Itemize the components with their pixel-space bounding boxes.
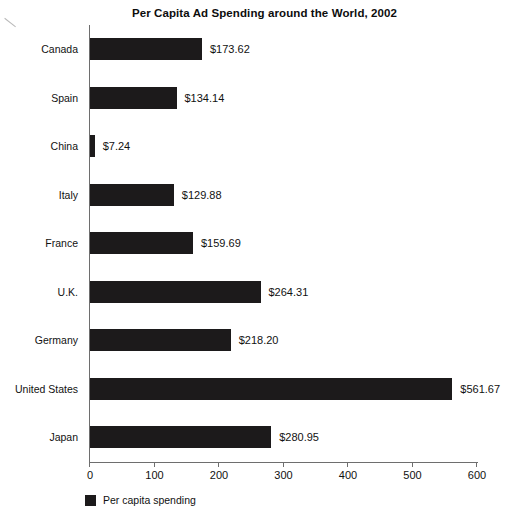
x-axis-tick-label: 0 <box>87 469 93 481</box>
x-axis-line <box>89 462 478 463</box>
bar-uk <box>90 281 261 303</box>
x-axis-tick <box>283 462 284 467</box>
legend-color-swatch <box>85 495 96 506</box>
x-axis-tick <box>412 462 413 467</box>
x-axis-tick-label: 500 <box>403 469 421 481</box>
bar-value-label: $218.20 <box>239 330 279 350</box>
category-label: Canada <box>41 39 78 59</box>
bar-row: Italy $129.88 <box>90 171 477 220</box>
bar-france <box>90 232 193 254</box>
bar-united-states <box>90 378 452 400</box>
chart-title: Per Capita Ad Spending around the World,… <box>0 7 529 19</box>
bar-germany <box>90 329 231 351</box>
bar-row: China $7.24 <box>90 122 477 171</box>
bar-canada <box>90 38 202 60</box>
bar-row: U.K. $264.31 <box>90 268 477 317</box>
x-axis-tick-label: 400 <box>339 469 357 481</box>
category-label: Germany <box>35 330 78 350</box>
bar-row: France $159.69 <box>90 219 477 268</box>
x-axis-tick <box>218 462 219 467</box>
bar-china <box>90 135 95 157</box>
bar-japan <box>90 426 271 448</box>
category-label: U.K. <box>58 282 78 302</box>
x-axis-tick <box>476 462 477 467</box>
category-label: United States <box>15 379 78 399</box>
bar-value-label: $561.67 <box>460 379 500 399</box>
x-axis-tick-label: 600 <box>468 469 486 481</box>
plot-area: Canada $173.62 Spain $134.14 China $7.24… <box>90 25 477 462</box>
category-label: Spain <box>51 88 78 108</box>
chart-legend: Per capita spending <box>85 494 196 506</box>
bar-value-label: $134.14 <box>185 88 225 108</box>
bar-row: Germany $218.20 <box>90 316 477 365</box>
bar-row: Japan $280.95 <box>90 413 477 462</box>
bar-value-label: $280.95 <box>279 427 319 447</box>
category-label: Japan <box>49 427 78 447</box>
bar-spain <box>90 87 177 109</box>
bar-row: United States $561.67 <box>90 365 477 414</box>
x-axis-tick <box>89 462 90 467</box>
x-axis-tick <box>154 462 155 467</box>
bar-italy <box>90 184 174 206</box>
x-axis-tick <box>347 462 348 467</box>
scan-artifact <box>4 18 16 28</box>
category-label: France <box>45 233 78 253</box>
legend-label: Per capita spending <box>103 494 196 506</box>
category-label: Italy <box>59 185 78 205</box>
bar-row: Spain $134.14 <box>90 74 477 123</box>
bar-value-label: $7.24 <box>103 136 131 156</box>
bar-value-label: $173.62 <box>210 39 250 59</box>
category-label: China <box>51 136 78 156</box>
x-axis-tick-label: 100 <box>145 469 163 481</box>
bar-value-label: $264.31 <box>269 282 309 302</box>
bar-row: Canada $173.62 <box>90 25 477 74</box>
bar-value-label: $159.69 <box>201 233 241 253</box>
x-axis-tick-label: 200 <box>210 469 228 481</box>
bar-chart-figure: Per Capita Ad Spending around the World,… <box>0 0 529 528</box>
x-axis-tick-label: 300 <box>274 469 292 481</box>
bar-value-label: $129.88 <box>182 185 222 205</box>
